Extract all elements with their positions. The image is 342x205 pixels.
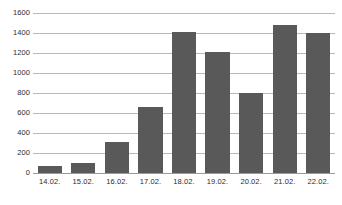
bar <box>273 25 297 173</box>
bars-layer <box>33 13 335 173</box>
y-axis-tick-label: 400 <box>0 129 30 137</box>
y-axis-tick-label: 200 <box>0 149 30 157</box>
y-axis-tick-label: 1600 <box>0 9 30 17</box>
x-axis-tick-label: 14.02. <box>33 178 67 186</box>
x-axis-tick-label: 20.02. <box>234 178 268 186</box>
y-axis-tick-label: 600 <box>0 109 30 117</box>
y-axis-tick-label: 800 <box>0 89 30 97</box>
bar <box>71 163 95 173</box>
x-axis-tick-label: 17.02. <box>134 178 168 186</box>
bar-chart: 02004006008001000120014001600 14.02.15.0… <box>0 0 342 205</box>
bar <box>172 32 196 173</box>
bar <box>38 166 62 173</box>
y-axis: 02004006008001000120014001600 <box>0 13 30 173</box>
x-axis: 14.02.15.02.16.02.17.02.18.02.19.02.20.0… <box>33 178 335 192</box>
y-axis-tick-label: 0 <box>0 169 30 177</box>
axis-baseline <box>33 173 335 174</box>
y-axis-tick-label: 1400 <box>0 29 30 37</box>
bar <box>306 33 330 174</box>
x-axis-tick-label: 19.02. <box>201 178 235 186</box>
x-axis-tick-label: 15.02. <box>67 178 101 186</box>
x-axis-tick-label: 21.02. <box>268 178 302 186</box>
bar <box>239 93 263 173</box>
x-axis-tick-label: 22.02. <box>301 178 335 186</box>
y-axis-tick-label: 1000 <box>0 69 30 77</box>
x-axis-tick-label: 18.02. <box>167 178 201 186</box>
bar <box>105 142 129 173</box>
x-axis-tick-label: 16.02. <box>100 178 134 186</box>
bar <box>205 52 229 174</box>
bar <box>138 107 162 174</box>
y-axis-tick-label: 1200 <box>0 49 30 57</box>
